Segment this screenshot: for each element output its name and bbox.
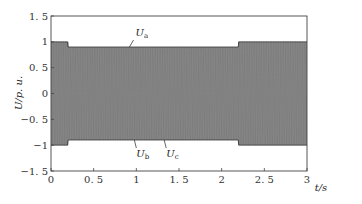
x-tick-label: 1. 5 <box>169 174 188 185</box>
y-tick-label: 0. 5 <box>29 62 48 73</box>
x-tick-label: 1 <box>133 174 139 185</box>
x-axis-label: t/s <box>315 182 328 193</box>
annotation-Ua: Ua <box>136 27 149 40</box>
y-tick-label: 0 <box>42 88 48 99</box>
annotation-Ub: Ub <box>136 148 149 161</box>
x-tick-label: 0. 5 <box>84 174 103 185</box>
x-tick-label: 0 <box>48 174 54 185</box>
x-tick-label: 3 <box>304 174 310 185</box>
annotation-Uc: Uc <box>166 148 178 161</box>
waveform-area <box>51 42 307 145</box>
x-tick-label: 2. 5 <box>255 174 274 185</box>
x-tick-label: 2 <box>218 174 224 185</box>
y-tick-label: 1. 5 <box>29 11 48 22</box>
voltage-chart: 00. 511. 522. 531. 510. 50−0. 5−1−1. 5 U… <box>0 0 362 204</box>
y-tick-label: −1 <box>33 140 48 151</box>
y-axis-label: U/p. u. <box>13 76 24 110</box>
y-tick-label: 1 <box>42 36 48 47</box>
y-tick-label: −0. 5 <box>21 114 48 125</box>
y-tick-label: −1. 5 <box>21 166 48 177</box>
